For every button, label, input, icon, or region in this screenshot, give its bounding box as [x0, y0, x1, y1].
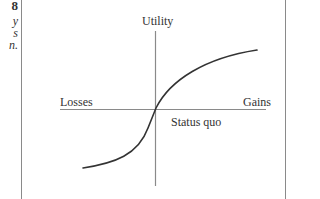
origin-label: Status quo — [171, 116, 221, 128]
y-axis-label: Utility — [142, 15, 173, 27]
x-axis-negative-label: Losses — [60, 96, 93, 108]
x-axis-positive-label: Gains — [243, 96, 271, 108]
